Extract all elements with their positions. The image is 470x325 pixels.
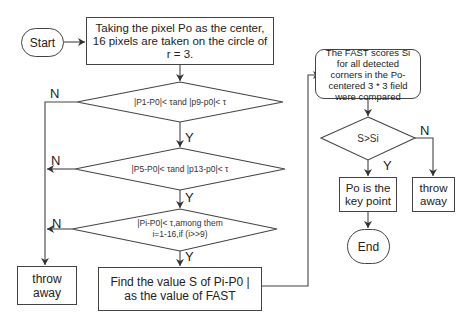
end-terminal: End	[347, 229, 390, 264]
edge-label-n1: N	[50, 86, 59, 101]
decision-3-text-line1: |Pi-P0|< τ,among them	[110, 218, 250, 229]
throw-away-right-box: throw away	[412, 177, 455, 212]
edge-label-y3: Y	[185, 249, 194, 264]
key-point-box: Po is the key point	[339, 177, 397, 212]
fast-value-box: Find the value S of Pi-P0 | as the value…	[98, 267, 262, 311]
end-label: End	[358, 240, 379, 254]
start-terminal: Start	[21, 28, 64, 57]
edge-label-y2: Y	[185, 190, 194, 205]
key-point-text: Po is the key point	[343, 182, 393, 208]
compare-scores-text: The FAST scores Si for all detected corn…	[320, 47, 416, 102]
edge-label-y4: Y	[383, 158, 392, 173]
throw-away-left-text: throw away	[24, 272, 70, 300]
sample-pixels-box: Taking the pixel Po as the center, 16 pi…	[86, 17, 274, 65]
edge-label-n3: N	[52, 216, 61, 231]
decision-2-text: |P5-P0|< τand |p13-p0|< τ	[110, 164, 250, 175]
throw-away-left-box: throw away	[17, 266, 77, 305]
sample-pixels-text: Taking the pixel Po as the center, 16 pi…	[91, 22, 269, 61]
decision-4-text: S>Si	[338, 133, 398, 144]
compare-scores-box: The FAST scores Si for all detected corn…	[315, 49, 421, 99]
throw-away-right-text: throw away	[416, 182, 451, 208]
decision-1-text: |P1-P0|< τand |p9-p0|< τ	[110, 97, 250, 108]
edge-label-n2: N	[51, 153, 60, 168]
decision-3-text-line2: i=1-16,if (i>>9)	[110, 229, 250, 240]
edge-label-n4: N	[420, 123, 429, 138]
edge-label-y1: Y	[185, 130, 194, 145]
fast-value-text: Find the value S of Pi-P0 | as the value…	[105, 275, 255, 303]
start-label: Start	[30, 36, 55, 50]
